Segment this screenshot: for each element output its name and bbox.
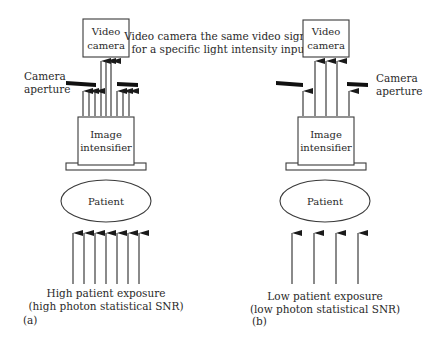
camera-arrows-a [101,61,111,116]
patient-b: Patient [280,180,370,222]
aperture-label-a-2: aperture [24,83,70,95]
exposure-a-line-1: High patient exposure [47,287,166,299]
intensifier-b-label-2: intensifier [300,142,352,153]
aperture-label-b-1: Camera [376,72,418,84]
incident-arrows-b [292,233,358,284]
aperture-label-a-1: Camera [24,70,66,82]
exposure-a-line-2: (high photon statistical SNR) [28,300,183,312]
intensifier-a-label-2: intensifier [80,142,132,153]
panel-a: Video camera Camera aperture [23,19,184,326]
video-camera-a-label-1: Video [91,26,121,37]
intensifier-a-label-1: Image [90,129,122,140]
image-intensifier-a: Image intensifier [66,117,146,170]
patient-a-label: Patient [88,196,124,207]
panel-b: Video camera Camera aperture Image inten… [250,20,423,327]
video-camera-b-label-1: Video [311,26,341,37]
panel-label-b: (b) [252,315,267,327]
video-camera-b: Video camera [303,20,349,57]
image-intensifier-b: Image intensifier [286,117,366,170]
video-camera-b-label-2: camera [307,40,345,51]
camera-aperture-b [276,81,368,87]
camera-arrows-b [315,61,337,116]
aperture-label-b-2: aperture [376,85,422,97]
patient-a: Patient [61,180,151,222]
center-note-line-1: Video camera the same video signal [123,30,316,42]
diagram-canvas: Video camera Camera aperture [0,0,434,342]
video-camera-a-label-2: camera [87,40,125,51]
patient-b-label: Patient [307,196,343,207]
panel-label-a: (a) [23,314,37,326]
video-camera-a: Video camera [83,19,129,57]
camera-aperture-a [66,81,138,87]
center-note-line-2: for a specific light intensity input [131,43,309,55]
exposure-b-line-2: (low photon statistical SNR) [250,303,400,315]
center-note: Video camera the same video signal for a… [123,30,316,55]
incident-arrows-a [73,233,139,284]
figure: Video camera Camera aperture [0,0,434,342]
exposure-b-line-1: Low patient exposure [267,290,382,302]
intensifier-b-label-1: Image [310,129,342,140]
